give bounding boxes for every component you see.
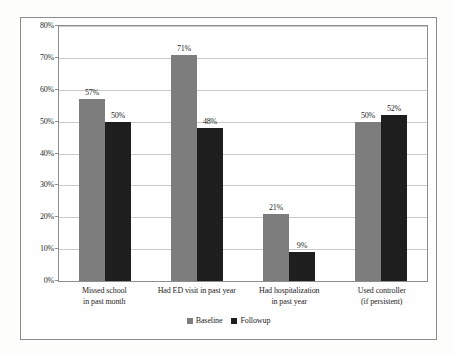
y-axis-tick-mark bbox=[55, 184, 59, 185]
bar-slot: 21% bbox=[263, 26, 289, 281]
y-axis-tick-label: 50% bbox=[21, 116, 54, 125]
x-axis-category-label: Had ED visit in past year bbox=[151, 286, 244, 307]
bar-value-label: 50% bbox=[111, 111, 125, 120]
y-axis-tick-mark bbox=[55, 25, 59, 26]
bar-slot: 52% bbox=[381, 26, 407, 281]
bar-slot: 9% bbox=[289, 26, 315, 281]
bar-value-label: 9% bbox=[297, 241, 307, 250]
bar-baseline[interactable]: 57% bbox=[79, 99, 105, 281]
bar-slot: 50% bbox=[105, 26, 131, 281]
y-axis-tick-mark bbox=[55, 280, 59, 281]
plot-area: 57%50%71%48%21%9%50%52% bbox=[58, 25, 428, 282]
bar-baseline[interactable]: 71% bbox=[171, 55, 197, 281]
y-axis-tick-label: 60% bbox=[21, 84, 54, 93]
legend-swatch-icon bbox=[231, 318, 237, 324]
bar-value-label: 48% bbox=[203, 117, 217, 126]
x-axis-category-label: Had hospitalizationin past year bbox=[243, 286, 336, 307]
y-axis-tick-mark bbox=[55, 57, 59, 58]
bar-group: 21%9% bbox=[263, 26, 315, 281]
y-axis-tick-mark bbox=[55, 153, 59, 154]
category-label-line: in past month bbox=[58, 297, 151, 308]
legend-item[interactable]: Followup bbox=[231, 316, 270, 325]
bar-followup[interactable]: 48% bbox=[197, 128, 223, 281]
y-axis-tick-label: 70% bbox=[21, 52, 54, 61]
bar-followup[interactable]: 52% bbox=[381, 115, 407, 281]
category-label-line: Missed school bbox=[58, 286, 151, 297]
category-label-line: in past year bbox=[243, 297, 336, 308]
bar-group: 57%50% bbox=[79, 26, 131, 281]
bar-value-label: 52% bbox=[387, 104, 401, 113]
legend-label: Followup bbox=[240, 316, 270, 325]
bar-groups: 57%50%71%48%21%9%50%52% bbox=[59, 26, 427, 281]
y-axis-tick-label: 30% bbox=[21, 180, 54, 189]
category-label-line: Used controller bbox=[336, 286, 429, 297]
chart-legend: BaselineFollowup bbox=[21, 316, 436, 325]
y-axis-tick-mark bbox=[55, 89, 59, 90]
category-label-line: Had hospitalization bbox=[243, 286, 336, 297]
x-axis-category-labels: Missed schoolin past monthHad ED visit i… bbox=[58, 286, 428, 307]
x-axis-category-label: Missed schoolin past month bbox=[58, 286, 151, 307]
chart-figure: 57%50%71%48%21%9%50%52% 80%70%60%50%40%3… bbox=[20, 17, 437, 340]
bar-group: 50%52% bbox=[355, 26, 407, 281]
bar-baseline[interactable]: 21% bbox=[263, 214, 289, 281]
bar-value-label: 57% bbox=[85, 88, 99, 97]
bar-value-label: 50% bbox=[361, 111, 375, 120]
bar-followup[interactable]: 9% bbox=[289, 252, 315, 281]
legend-label: Baseline bbox=[196, 316, 223, 325]
y-axis-tick-label: 80% bbox=[21, 21, 54, 30]
y-axis-tick-label: 40% bbox=[21, 148, 54, 157]
bar-followup[interactable]: 50% bbox=[105, 122, 131, 281]
bar-baseline[interactable]: 50% bbox=[355, 122, 381, 281]
bar-slot: 48% bbox=[197, 26, 223, 281]
bar-value-label: 71% bbox=[177, 44, 191, 53]
y-axis-tick-label: 10% bbox=[21, 244, 54, 253]
y-axis-tick-mark bbox=[55, 121, 59, 122]
legend-swatch-icon bbox=[187, 318, 193, 324]
y-axis-tick-label: 0% bbox=[21, 276, 54, 285]
bar-slot: 57% bbox=[79, 26, 105, 281]
bar-slot: 50% bbox=[355, 26, 381, 281]
category-label-line: Had ED visit in past year bbox=[151, 286, 244, 297]
y-axis-tick-mark bbox=[55, 216, 59, 217]
y-axis-tick-label: 20% bbox=[21, 212, 54, 221]
bar-slot: 71% bbox=[171, 26, 197, 281]
bar-group: 71%48% bbox=[171, 26, 223, 281]
x-axis-category-label: Used controller(if persistent) bbox=[336, 286, 429, 307]
category-label-line: (if persistent) bbox=[336, 297, 429, 308]
legend-item[interactable]: Baseline bbox=[187, 316, 223, 325]
y-axis-tick-mark bbox=[55, 248, 59, 249]
bar-value-label: 21% bbox=[269, 203, 283, 212]
